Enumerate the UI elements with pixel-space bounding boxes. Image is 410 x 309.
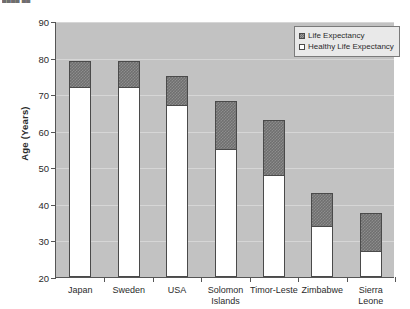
- x-axis-tick: [250, 277, 251, 282]
- y-axis-tick-label: 30: [38, 236, 49, 247]
- y-axis-tick: [51, 132, 56, 133]
- y-axis-tick: [51, 278, 56, 279]
- bar-group[interactable]: [69, 21, 91, 277]
- bar-group[interactable]: [166, 21, 188, 277]
- chart-legend: Life ExpectancyHealthy Life Expectancy: [294, 26, 400, 57]
- bar-healthy-life-expectancy[interactable]: [311, 226, 333, 277]
- chart-figure: Age (Years) 2030405060708090JapanSwedenU…: [0, 4, 410, 304]
- bar-group[interactable]: [263, 21, 285, 277]
- legend-label: Healthy Life Expectancy: [308, 41, 394, 52]
- y-axis-tick-label: 50: [38, 163, 49, 174]
- bars-container: [56, 22, 394, 277]
- legend-label: Life Expectancy: [308, 30, 364, 41]
- y-axis-title: Age (Years): [19, 94, 30, 174]
- y-axis-tick: [51, 22, 56, 23]
- y-axis-tick: [51, 241, 56, 242]
- x-axis-tick-label: Zimbabwe: [302, 285, 344, 296]
- x-axis-tick: [347, 277, 348, 282]
- y-axis-tick-label: 20: [38, 273, 49, 284]
- legend-item[interactable]: Life Expectancy: [299, 30, 394, 41]
- plot-area: 2030405060708090JapanSwedenUSASolomon Is…: [55, 22, 394, 278]
- cut-off-caption: ████ ██: [2, 0, 36, 3]
- bar-healthy-life-expectancy[interactable]: [263, 175, 285, 277]
- bar-group[interactable]: [118, 21, 140, 277]
- x-axis-tick: [395, 277, 396, 282]
- bar-group[interactable]: [215, 21, 237, 277]
- legend-swatch-icon: [299, 44, 305, 50]
- x-axis-tick: [298, 277, 299, 282]
- x-axis-tick-label: Solomon Islands: [208, 285, 244, 306]
- bar-group[interactable]: [311, 21, 333, 277]
- y-axis-tick-label: 90: [38, 17, 49, 28]
- bar-group[interactable]: [360, 21, 382, 277]
- x-axis-tick: [153, 277, 154, 282]
- legend-swatch-icon: [299, 33, 305, 39]
- x-axis-tick-label: USA: [168, 285, 187, 296]
- bar-healthy-life-expectancy[interactable]: [360, 251, 382, 277]
- x-axis-tick-label: Sierra Leone: [358, 285, 383, 306]
- x-axis-tick-label: Sweden: [112, 285, 145, 296]
- y-axis-tick: [51, 205, 56, 206]
- y-axis-tick-label: 40: [38, 199, 49, 210]
- y-axis-tick-label: 60: [38, 126, 49, 137]
- legend-item[interactable]: Healthy Life Expectancy: [299, 41, 394, 52]
- bar-healthy-life-expectancy[interactable]: [118, 87, 140, 277]
- bar-healthy-life-expectancy[interactable]: [166, 105, 188, 277]
- y-axis-tick: [51, 59, 56, 60]
- y-axis-tick: [51, 95, 56, 96]
- x-axis-tick-label: Japan: [68, 285, 93, 296]
- y-axis-tick: [51, 168, 56, 169]
- x-axis-tick: [201, 277, 202, 282]
- x-axis-tick: [104, 277, 105, 282]
- x-axis-tick-label: Timor-Leste: [250, 285, 298, 296]
- y-axis-tick-label: 70: [38, 90, 49, 101]
- bar-healthy-life-expectancy[interactable]: [215, 149, 237, 277]
- y-axis-tick-label: 80: [38, 53, 49, 64]
- bar-healthy-life-expectancy[interactable]: [69, 87, 91, 277]
